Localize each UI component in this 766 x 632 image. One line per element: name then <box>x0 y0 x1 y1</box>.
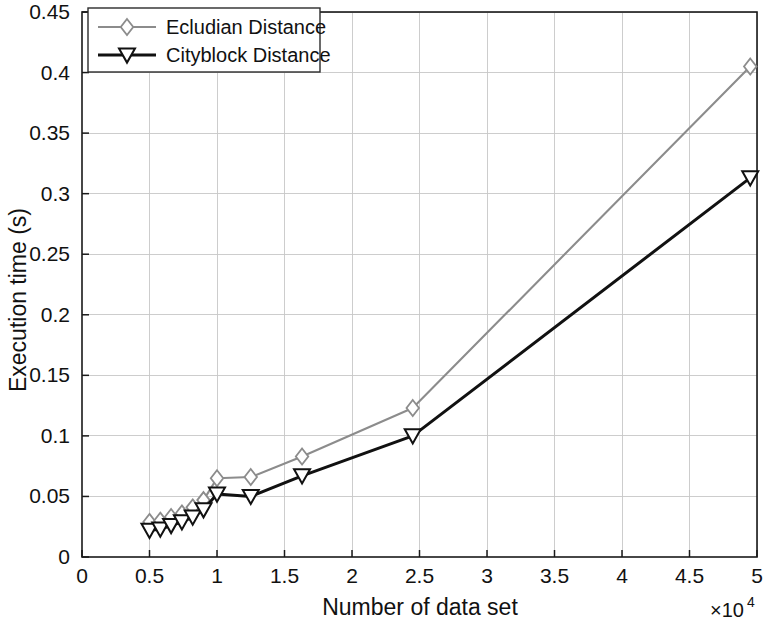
x-axis-title: Number of data set <box>322 594 518 620</box>
series-line <box>150 67 751 522</box>
x-tick-label: 4.5 <box>675 564 704 587</box>
axis-tick-labels: 00.511.522.533.544.5500.050.10.150.20.25… <box>29 0 763 587</box>
data-point-marker <box>294 469 310 483</box>
x-axis-exponent-power: 4 <box>747 594 755 610</box>
data-series <box>142 59 759 538</box>
y-tick-label: 0.45 <box>29 0 70 23</box>
x-tick-label: 1.5 <box>270 564 299 587</box>
legend-label: Ecludian Distance <box>166 16 326 38</box>
data-point-marker <box>245 469 257 485</box>
y-tick-label: 0.15 <box>29 363 70 386</box>
x-tick-label: 2.5 <box>405 564 434 587</box>
y-axis-title: Execution time (s) <box>5 208 31 392</box>
series-2 <box>142 171 759 538</box>
chart-legend[interactable]: Ecludian DistanceCityblock Distance <box>88 8 331 72</box>
data-point-marker <box>296 448 308 464</box>
x-tick-label: 0 <box>76 564 88 587</box>
x-tick-label: 4 <box>616 564 628 587</box>
y-tick-label: 0.2 <box>41 303 70 326</box>
legend-label: Cityblock Distance <box>166 44 331 66</box>
x-tick-label: 5 <box>751 564 763 587</box>
x-tick-label: 2 <box>346 564 358 587</box>
x-tick-label: 1 <box>211 564 223 587</box>
chart-figure: 00.511.522.533.544.5500.050.10.150.20.25… <box>0 0 766 632</box>
y-tick-label: 0.3 <box>41 182 70 205</box>
x-tick-label: 3 <box>481 564 493 587</box>
x-tick-label: 0.5 <box>135 564 164 587</box>
y-tick-label: 0.4 <box>41 61 71 84</box>
line-chart-canvas: 00.511.522.533.544.5500.050.10.150.20.25… <box>0 0 766 632</box>
x-axis-exponent-base: ×10 <box>710 599 744 621</box>
gridlines <box>82 12 757 557</box>
y-tick-label: 0.25 <box>29 242 70 265</box>
x-tick-label: 3.5 <box>540 564 569 587</box>
y-tick-label: 0.05 <box>29 484 70 507</box>
y-tick-label: 0 <box>58 545 70 568</box>
y-tick-label: 0.1 <box>41 424 70 447</box>
series-1 <box>143 59 756 530</box>
y-tick-label: 0.35 <box>29 121 70 144</box>
